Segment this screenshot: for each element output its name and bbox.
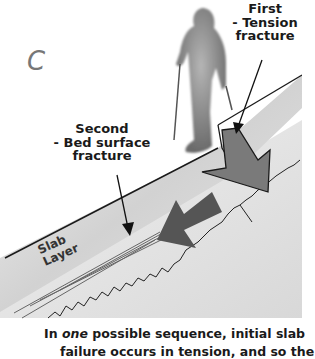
- caption: In one possible sequence, initial slab: [44, 326, 302, 341]
- first-fracture-line-1: First: [228, 2, 302, 16]
- second-fracture-label: Second - Bed surface fracture: [52, 122, 152, 163]
- caption-prefix: In: [44, 326, 62, 341]
- caption-second-line-cutoff: failure occurs in tension, and so the: [60, 344, 314, 359]
- first-fracture-line-3: fracture: [228, 29, 302, 43]
- caption-rest: possible sequence, initial slab: [88, 326, 305, 341]
- panel-letter: C: [27, 46, 45, 76]
- second-fracture-line-1: Second: [52, 122, 152, 136]
- caption-emphasis: one: [62, 326, 88, 341]
- first-fracture-line-2: - Tension: [228, 16, 302, 30]
- second-fracture-line-2: - Bed surface: [52, 136, 152, 150]
- first-fracture-label: First - Tension fracture: [228, 2, 302, 43]
- second-fracture-line-3: fracture: [52, 149, 152, 163]
